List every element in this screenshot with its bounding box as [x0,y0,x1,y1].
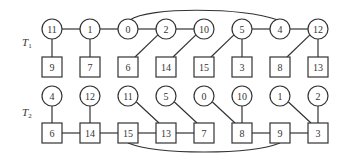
tree-1-square-node: 7 [80,57,100,77]
tree-1-link-edge [173,35,196,57]
tree-2-square-node: 13 [156,123,176,143]
node-label: 8 [240,128,245,139]
tree-2-circle-node: 5 [156,86,176,106]
node-label: 15 [123,128,133,139]
tree-1-link-edge [211,35,234,57]
node-label: 12 [313,24,323,35]
node-label: 13 [161,128,171,139]
node-label: 5 [240,24,245,35]
node-label: 6 [50,128,55,139]
node-label: 1 [278,91,283,102]
nodes-layer: 1110210541297614153813412115010126141513… [42,19,328,143]
node-label: 7 [202,128,207,139]
tree-2-circle-node: 12 [80,86,100,106]
tree-1-square-node: 8 [270,57,290,77]
two-tree-diagram: 1110210541297614153813412115010126141513… [0,0,348,153]
tree-1-circle-node: 1 [80,19,100,39]
labels-layer: T1T2 [22,36,32,120]
tree-2-label: T2 [22,106,32,120]
tree-1-circle-node: 2 [156,19,176,39]
node-label: 14 [161,62,171,73]
node-label: 2 [316,91,321,102]
node-label: 11 [123,91,133,102]
node-label: 7 [88,62,93,73]
tree-2-square-node: 9 [270,123,290,143]
tree-1-circle-node: 0 [118,19,138,39]
tree-2-square-node: 3 [308,123,328,143]
node-label: 11 [47,24,57,35]
node-label: 6 [126,62,131,73]
tree-1-square-node: 14 [156,57,176,77]
tree-1-label: T1 [22,36,32,50]
tree-1-circle-node: 11 [42,19,62,39]
tree-1-circle-node: 12 [308,19,328,39]
tree-2-link-edge [288,102,311,123]
tree-1-circle-node: 10 [194,19,214,39]
node-label: 9 [50,62,55,73]
tree-2-arc-edge [128,143,280,152]
tree-2-square-node: 8 [232,123,252,143]
tree-2-circle-node: 1 [270,86,290,106]
node-label: 14 [85,128,95,139]
node-label: 5 [164,91,169,102]
tree-2-circle-node: 0 [194,86,214,106]
tree-1-square-node: 6 [118,57,138,77]
tree-2-square-node: 6 [42,123,62,143]
node-label: 13 [313,62,323,73]
tree-1-link-edge [287,35,310,57]
tree-2-circle-node: 4 [42,86,62,106]
tree-1-square-node: 15 [194,57,214,77]
node-label: 3 [316,128,321,139]
node-label: 0 [126,24,131,35]
tree-1-circle-node: 4 [270,19,290,39]
tree-2-link-edge [212,102,235,123]
node-label: 4 [50,91,55,102]
node-label: 10 [237,91,247,102]
node-label: 10 [199,24,209,35]
node-label: 12 [85,91,95,102]
tree-1-link-edge [135,35,158,57]
node-label: 1 [88,24,93,35]
tree-1-circle-node: 5 [232,19,252,39]
tree-2-circle-node: 2 [308,86,328,106]
node-label: 3 [240,62,245,73]
tree-2-square-node: 14 [80,123,100,143]
tree-2-link-edge [136,102,159,123]
node-label: 8 [278,62,283,73]
tree-1-square-node: 9 [42,57,62,77]
tree-1-square-node: 3 [232,57,252,77]
node-label: 9 [278,128,283,139]
node-label: 2 [164,24,169,35]
tree-2-circle-node: 11 [118,86,138,106]
tree-2-square-node: 7 [194,123,214,143]
node-label: 0 [202,91,207,102]
tree-2-link-edge [174,102,197,123]
tree-1-square-node: 13 [308,57,328,77]
tree-2-circle-node: 10 [232,86,252,106]
tree-2-square-node: 15 [118,123,138,143]
node-label: 4 [278,24,283,35]
node-label: 15 [199,62,209,73]
